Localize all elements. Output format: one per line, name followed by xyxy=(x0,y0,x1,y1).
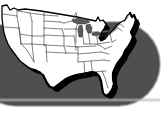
usa-map-svg xyxy=(0,0,161,116)
lake-michigan-shape xyxy=(78,25,83,37)
map-graphic-canvas: Map of the Continental United States xyxy=(0,0,161,116)
